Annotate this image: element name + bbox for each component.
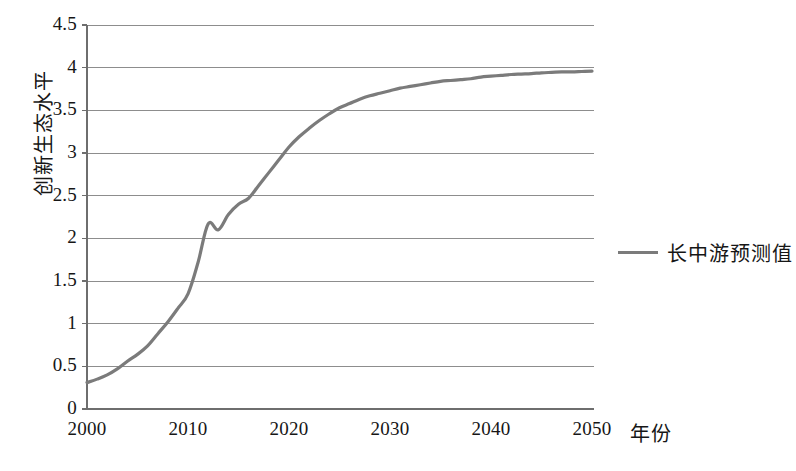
axis-ticks-group [82,25,87,409]
y-tick-label: 2 [23,226,77,248]
series-line-0 [87,71,592,382]
y-tick-label: 4.5 [23,13,77,35]
x-tick-label: 2010 [153,418,223,440]
axis-lines-group [87,25,594,409]
x-axis-title: 年份 [630,418,672,447]
x-tick-label: 2000 [52,418,122,440]
data-series-group [87,71,592,382]
x-tick-label: 2040 [456,418,526,440]
x-tick-label: 2050 [557,418,627,440]
y-tick-label: 0.5 [23,354,77,376]
legend-line-swatch [618,251,658,254]
x-tick-label: 2030 [355,418,425,440]
legend-label: 长中游预测值 [667,238,793,267]
chart-legend: 长中游预测值 [618,238,793,267]
y-axis-title: 创新生态水平 [28,43,57,223]
chart-plot-area [0,0,796,471]
y-tick-label: 1.5 [23,269,77,291]
chart-figure: 00.511.522.533.544.5 2000201020202030204… [0,0,796,471]
x-tick-label: 2020 [254,418,324,440]
y-tick-label: 0 [23,397,77,419]
gridlines-group [87,25,594,366]
y-tick-label: 1 [23,312,77,334]
